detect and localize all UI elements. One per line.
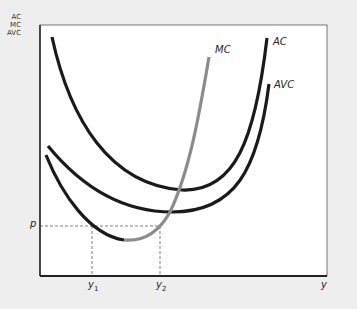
y-axis-label-ac: AC	[7, 13, 21, 21]
cost-curves-diagram	[0, 0, 357, 309]
y2-tick-label: y2	[156, 280, 166, 294]
ac-label: AC	[273, 37, 287, 47]
price-label: p	[30, 219, 36, 229]
x-axis-label: y	[321, 280, 327, 290]
y1-tick-label: y1	[88, 280, 98, 294]
plot-area	[40, 25, 327, 276]
y1-sub: 1	[94, 285, 98, 293]
mc-label: MC	[215, 45, 231, 55]
y2-sub: 2	[162, 285, 166, 293]
y-axis-label: AC MC AVC	[7, 13, 21, 37]
avc-label: AVC	[274, 80, 294, 90]
y-axis-label-mc: MC	[7, 21, 21, 29]
y-axis-label-avc: AVC	[7, 29, 21, 37]
